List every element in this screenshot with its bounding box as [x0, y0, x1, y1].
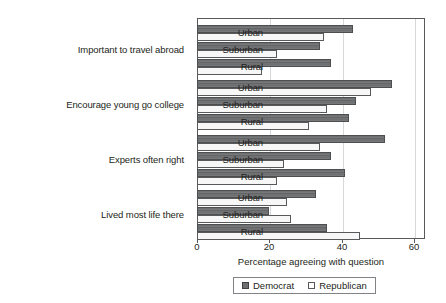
group-label: Encourage young go college [66, 99, 184, 110]
bar-republican [197, 88, 371, 96]
legend-item-democrat: Democrat [242, 280, 294, 291]
y-tick-label-urban: Urban [238, 82, 263, 93]
y-tick-label-rural: Rural [241, 61, 263, 72]
bar-democrat [197, 114, 349, 122]
gridline-40 [343, 19, 344, 238]
bar-chart: Percentage agreeing with question Democr… [0, 0, 446, 303]
bar-democrat [197, 135, 385, 143]
y-tick-label-rural: Rural [241, 171, 263, 182]
legend-label-democrat: Democrat [253, 280, 294, 291]
y-tick-label-suburban: Suburban [223, 154, 263, 165]
x-tick-label-20: 20 [254, 241, 284, 252]
bar-republican [197, 232, 360, 240]
group-label: Experts often right [109, 154, 184, 165]
x-tick-label-40: 40 [327, 241, 357, 252]
y-tick-label-suburban: Suburban [223, 99, 263, 110]
bar-republican [197, 177, 277, 185]
legend-swatch-republican-icon [308, 282, 315, 289]
y-tick-label-rural: Rural [241, 226, 263, 237]
x-axis-title: Percentage agreeing with question [197, 256, 425, 267]
bar-democrat [197, 80, 392, 88]
x-tick-label-0: 0 [182, 241, 212, 252]
bar-democrat [197, 97, 356, 105]
bar-democrat [197, 169, 345, 177]
y-tick-label-urban: Urban [238, 137, 263, 148]
bar-democrat [197, 25, 353, 33]
legend-swatch-democrat-icon [242, 282, 249, 289]
y-tick-label-urban: Urban [238, 27, 263, 38]
bar-democrat [197, 59, 331, 67]
legend-label-republican: Republican [319, 280, 367, 291]
gridline-60 [415, 19, 416, 238]
y-tick-label-urban: Urban [238, 192, 263, 203]
y-tick-label-suburban: Suburban [223, 44, 263, 55]
bar-democrat [197, 152, 331, 160]
legend-item-republican: Republican [308, 280, 367, 291]
y-tick-label-rural: Rural [241, 116, 263, 127]
group-label: Important to travel abroad [78, 44, 184, 55]
y-tick-label-suburban: Suburban [223, 209, 263, 220]
x-tick-label-60: 60 [399, 241, 429, 252]
group-label: Lived most life there [101, 209, 184, 220]
chart-legend: Democrat Republican [233, 277, 376, 294]
